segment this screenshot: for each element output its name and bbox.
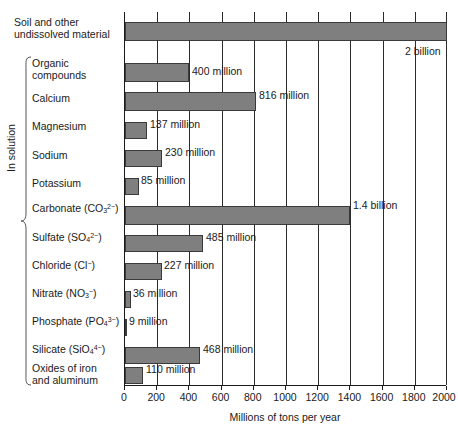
gridline-1800 bbox=[415, 12, 416, 385]
bar-silicate bbox=[125, 347, 200, 364]
category-label-line1: Soil and other bbox=[14, 16, 79, 28]
value-label-oxides: 110 million bbox=[146, 364, 195, 375]
gridline-1200 bbox=[318, 12, 319, 385]
value-label-silicate: 468 million bbox=[203, 344, 253, 355]
value-label-magnesium: 137 million bbox=[150, 119, 200, 130]
tick-mark-800 bbox=[253, 386, 254, 390]
value-label-organic-compounds: 400 million bbox=[192, 66, 242, 77]
tick-label-1800: 1800 bbox=[402, 391, 425, 403]
category-label-magnesium: Magnesium bbox=[32, 121, 86, 133]
tick-mark-1200 bbox=[317, 386, 318, 390]
bar-sodium bbox=[125, 150, 162, 167]
tick-label-1600: 1600 bbox=[370, 391, 393, 403]
gridline-800 bbox=[254, 12, 255, 385]
tick-mark-0 bbox=[124, 386, 125, 390]
value-label-sodium: 230 million bbox=[165, 147, 215, 158]
tick-label-1200: 1200 bbox=[306, 391, 329, 403]
category-label-line1: Oxides of iron bbox=[32, 362, 97, 374]
category-label-line1: Organic bbox=[32, 57, 69, 69]
tick-mark-2000 bbox=[446, 386, 447, 390]
category-label-organic-compounds: Organic compounds bbox=[32, 57, 86, 81]
value-label-sulfate: 485 million bbox=[206, 232, 256, 243]
bar-potassium bbox=[125, 178, 139, 195]
category-label-phosphate: Phosphate (PO43−) bbox=[32, 314, 119, 330]
value-label-chloride: 227 million bbox=[164, 260, 214, 271]
category-label-nitrate: Nitrate (NO3−) bbox=[32, 286, 97, 302]
category-label-potassium: Potassium bbox=[32, 178, 81, 190]
category-label-line2: undissolved material bbox=[14, 28, 110, 40]
plot-area bbox=[124, 12, 446, 386]
bar-oxides bbox=[125, 367, 143, 384]
tick-mark-200 bbox=[156, 386, 157, 390]
tick-label-1400: 1400 bbox=[338, 391, 361, 403]
bar-phosphate bbox=[125, 319, 127, 336]
in-solution-label: In solution bbox=[5, 83, 17, 213]
tick-label-1000: 1000 bbox=[273, 391, 296, 403]
bar-carbonate bbox=[125, 206, 350, 225]
tick-label-800: 800 bbox=[244, 391, 262, 403]
tick-label-2000: 2000 bbox=[432, 391, 455, 403]
category-label-sodium: Sodium bbox=[32, 150, 68, 162]
bar-magnesium bbox=[125, 122, 147, 139]
bar-soil bbox=[125, 22, 447, 41]
value-label-calcium: 816 million bbox=[259, 90, 309, 101]
tick-label-600: 600 bbox=[212, 391, 230, 403]
tick-mark-1600 bbox=[382, 386, 383, 390]
category-label-carbonate: Carbonate (CO32−) bbox=[32, 201, 119, 217]
value-label-soil: 2 billion bbox=[405, 46, 441, 57]
tick-mark-1000 bbox=[285, 386, 286, 390]
gridline-1400 bbox=[350, 12, 351, 385]
category-label-soil: Soil and other undissolved material bbox=[14, 16, 110, 40]
bar-organic-compounds bbox=[125, 63, 189, 82]
value-label-phosphate: 9 million bbox=[129, 316, 168, 327]
category-label-line2: and aluminum bbox=[32, 374, 98, 386]
value-label-nitrate: 36 million bbox=[133, 288, 177, 299]
category-label-line2: compounds bbox=[32, 69, 86, 81]
tick-mark-1800 bbox=[414, 386, 415, 390]
bar-sulfate bbox=[125, 235, 203, 252]
category-label-calcium: Calcium bbox=[32, 93, 70, 105]
category-label-sulfate: Sulfate (SO42−) bbox=[32, 230, 102, 246]
bar-calcium bbox=[125, 92, 256, 111]
tick-label-400: 400 bbox=[180, 391, 198, 403]
tick-mark-400 bbox=[188, 386, 189, 390]
in-solution-bracket bbox=[20, 56, 32, 386]
gridline-1000 bbox=[286, 12, 287, 385]
tick-mark-1400 bbox=[349, 386, 350, 390]
gridline-2000 bbox=[446, 12, 447, 385]
bar-chart: Soil and other undissolved material Orga… bbox=[0, 0, 458, 438]
gridline-400 bbox=[189, 12, 190, 385]
category-label-chloride: Chloride (Cl−) bbox=[32, 258, 95, 274]
tick-label-0: 0 bbox=[121, 391, 127, 403]
value-label-potassium: 85 million bbox=[141, 175, 185, 186]
bar-nitrate bbox=[125, 291, 131, 308]
value-label-carbonate: 1.4 billion bbox=[353, 200, 397, 211]
x-axis-title: Millions of tons per year bbox=[124, 411, 446, 423]
bar-chloride bbox=[125, 263, 162, 280]
category-label-silicate: Silicate (SiO44−) bbox=[32, 342, 105, 358]
category-label-oxides: Oxides of iron and aluminum bbox=[32, 362, 98, 386]
tick-mark-600 bbox=[221, 386, 222, 390]
tick-label-200: 200 bbox=[147, 391, 165, 403]
